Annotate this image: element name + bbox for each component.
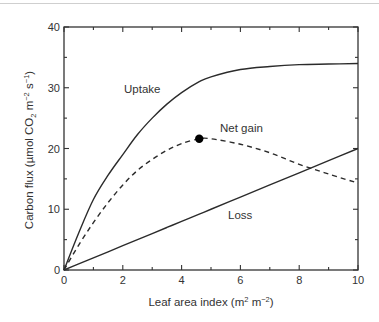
x-tick-label: 8 bbox=[296, 274, 302, 286]
y-axis-title: Carbon flux (µmol CO2 m−2 s−1) bbox=[22, 71, 38, 229]
chart: 0246810010203040 Uptake Net gain Loss Le… bbox=[0, 0, 379, 322]
plot-border bbox=[64, 27, 358, 270]
x-axis-title: Leaf area index (m2 m−2) bbox=[148, 295, 273, 308]
tick-labels: 0246810010203040 bbox=[48, 21, 364, 286]
y-tick-label: 10 bbox=[48, 203, 60, 215]
annotation-uptake: Uptake bbox=[124, 83, 160, 95]
net-gain-max-marker bbox=[195, 135, 203, 143]
y-tick-label: 20 bbox=[48, 143, 60, 155]
data-series bbox=[64, 63, 358, 270]
annotation-net-gain: Net gain bbox=[220, 122, 263, 134]
annotation-loss: Loss bbox=[228, 209, 253, 221]
series-net-gain bbox=[64, 138, 358, 270]
axis-ticks bbox=[64, 27, 358, 270]
series-loss bbox=[64, 149, 358, 271]
y-tick-label: 30 bbox=[48, 82, 60, 94]
x-tick-label: 2 bbox=[120, 274, 126, 286]
max-marker bbox=[195, 135, 203, 143]
y-tick-label: 40 bbox=[48, 21, 60, 33]
plot-frame bbox=[64, 27, 358, 270]
y-tick-label: 0 bbox=[54, 264, 60, 276]
x-tick-label: 0 bbox=[61, 274, 67, 286]
x-tick-label: 10 bbox=[352, 274, 364, 286]
x-tick-label: 4 bbox=[179, 274, 185, 286]
x-tick-label: 6 bbox=[237, 274, 243, 286]
